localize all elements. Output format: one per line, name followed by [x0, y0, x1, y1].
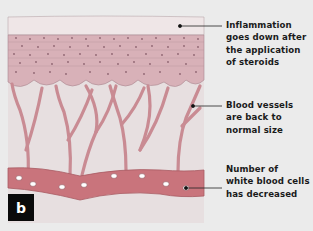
label-white-blood-cells: Number of white blood cells has decrease… — [226, 163, 310, 200]
label-line: white blood cells — [226, 175, 310, 187]
label-line: Number of — [226, 163, 310, 175]
label-line: normal size — [226, 124, 293, 136]
label-blood-vessels: Blood vessels are back to normal size — [226, 99, 293, 136]
epidermis-surface — [8, 16, 204, 35]
label-line: the application — [226, 44, 306, 56]
label-line: of steroids — [226, 56, 306, 68]
label-line: Inflammation — [226, 19, 306, 31]
label-line: has decreased — [226, 188, 310, 200]
label-line: are back to — [226, 111, 293, 123]
cell-layer — [8, 35, 204, 87]
label-inflammation: Inflammation goes down after the applica… — [226, 19, 306, 69]
panel-letter-badge: b — [8, 194, 34, 221]
label-line: Blood vessels — [226, 99, 293, 111]
label-line: goes down after — [226, 31, 306, 43]
